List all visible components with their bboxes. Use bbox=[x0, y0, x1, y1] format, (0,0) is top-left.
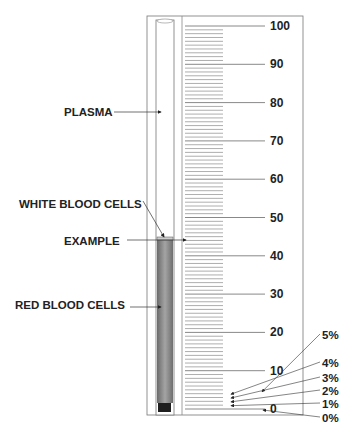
scale-label-40: 40 bbox=[270, 249, 284, 263]
capillary-tube bbox=[156, 19, 174, 415]
percent-label-2pct: 2% bbox=[322, 385, 339, 397]
percent-label-3pct: 3% bbox=[322, 372, 339, 384]
rbc-callout: RED BLOOD CELLS bbox=[15, 299, 161, 311]
scale-label-30: 30 bbox=[270, 287, 284, 301]
example-label: EXAMPLE bbox=[64, 235, 120, 247]
percent-label-4pct: 4% bbox=[322, 357, 339, 369]
plasma-label: PLASMA bbox=[64, 106, 113, 118]
rbc-label: RED BLOOD CELLS bbox=[15, 299, 125, 311]
hematocrit-diagram: 1009080706050403020100 PLASMA WHITE BLOO… bbox=[0, 0, 353, 440]
scale-numbers: 1009080706050403020100 bbox=[270, 19, 290, 416]
wbc-callout: WHITE BLOOD CELLS bbox=[19, 198, 164, 237]
wbc-label: WHITE BLOOD CELLS bbox=[19, 198, 142, 210]
scale-label-60: 60 bbox=[270, 172, 284, 186]
plasma-callout: PLASMA bbox=[64, 106, 161, 118]
buffy-coat bbox=[157, 237, 173, 240]
percent-label-1pct: 1% bbox=[322, 398, 339, 410]
scale-label-50: 50 bbox=[270, 211, 284, 225]
percent-callouts: 5%4%3%2%1%0% bbox=[231, 329, 339, 424]
clay-plug bbox=[158, 403, 171, 412]
percent-label-0pct: 0% bbox=[322, 412, 339, 424]
percent-label-5pct: 5% bbox=[322, 329, 339, 341]
scale-label-90: 90 bbox=[270, 57, 284, 71]
scale-label-80: 80 bbox=[270, 96, 284, 110]
red-blood-cell-column bbox=[157, 239, 173, 403]
scale-label-100: 100 bbox=[270, 19, 290, 33]
scale-label-70: 70 bbox=[270, 134, 284, 148]
scale-label-20: 20 bbox=[270, 325, 284, 339]
scale-ticks bbox=[185, 26, 265, 409]
